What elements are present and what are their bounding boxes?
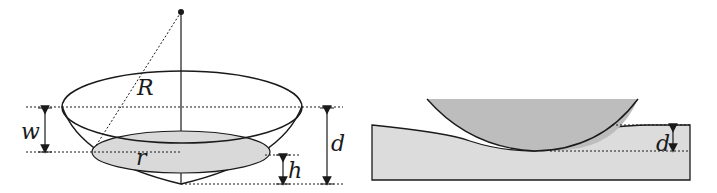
diagram-canvas: R w d r h d — [0, 0, 717, 193]
label-d-right: d — [656, 131, 670, 156]
left-figure: R w d r h — [21, 9, 345, 184]
right-figure: d — [372, 99, 690, 180]
label-h: h — [288, 158, 302, 183]
label-w: w — [21, 119, 40, 144]
label-r: r — [136, 145, 148, 170]
label-R: R — [136, 75, 154, 100]
label-d: d — [331, 131, 345, 156]
